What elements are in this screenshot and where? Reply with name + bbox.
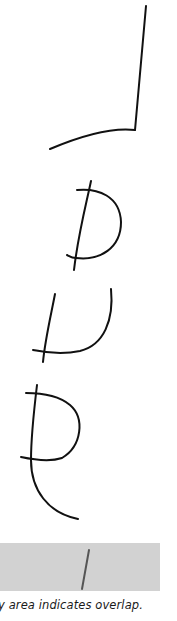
band-stroke xyxy=(0,0,177,621)
figure: y area indicates overlap. xyxy=(0,0,177,621)
figure-caption: y area indicates overlap. xyxy=(0,598,177,612)
